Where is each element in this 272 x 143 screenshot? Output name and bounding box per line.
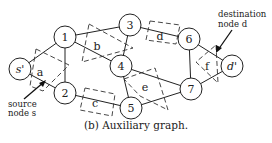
svg-text:5: 5	[128, 102, 135, 115]
svg-text:7: 7	[188, 83, 195, 96]
svg-text:s': s'	[16, 63, 25, 76]
svg-text:4: 4	[118, 60, 125, 73]
hyperedge-label-f: f	[205, 60, 210, 73]
svg-text:3: 3	[127, 19, 134, 32]
node-d: d'	[221, 55, 243, 77]
svg-text:1: 1	[62, 31, 69, 44]
hyperedge-label-b: b	[93, 40, 100, 53]
svg-text:6: 6	[186, 33, 193, 46]
node-2: 2	[54, 82, 76, 104]
hyperedge-label-c: c	[92, 97, 98, 110]
destination-arrow	[218, 30, 232, 50]
node-6: 6	[178, 28, 200, 50]
node-1: 1	[54, 26, 76, 48]
svg-text:2: 2	[62, 87, 69, 100]
source-label-line2: node s	[8, 108, 36, 118]
destination-label-line1: destination	[218, 9, 267, 19]
node-4: 4	[110, 55, 132, 77]
source-annotation: source node s	[8, 80, 46, 118]
hyperedge-label-e: e	[142, 81, 149, 94]
svg-text:d': d'	[227, 60, 237, 73]
destination-label-line2: node d	[218, 19, 248, 29]
node-5: 5	[120, 97, 142, 119]
hyperedge-label-d: d	[156, 30, 163, 43]
node-7: 7	[180, 78, 202, 100]
node-s: s'	[9, 58, 31, 80]
figure-caption: (b) Auxiliary graph.	[0, 119, 272, 131]
hyperedge-label-a: a	[37, 66, 44, 79]
destination-annotation: destination node d	[216, 9, 267, 53]
node-3: 3	[119, 14, 141, 36]
